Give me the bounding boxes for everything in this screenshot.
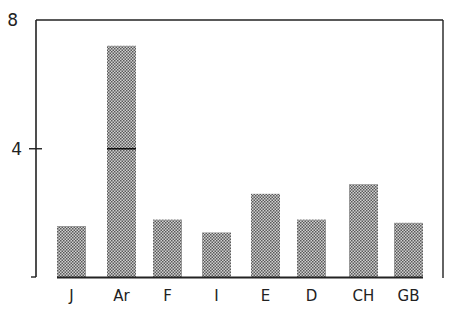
bar-chart: 48 JArFIEDCHGB [0, 0, 461, 314]
bar-f [153, 220, 182, 278]
bar-gb [394, 223, 423, 278]
x-category-label: J [68, 287, 73, 305]
plot-frame [31, 20, 443, 278]
bar-j [57, 226, 86, 278]
x-category-label: CH [353, 287, 375, 305]
x-axis-labels: JArFIEDCHGB [68, 287, 419, 305]
x-category-label: I [214, 287, 218, 305]
x-category-label: GB [398, 287, 420, 305]
y-tick-label: 8 [7, 10, 18, 30]
bars [57, 46, 423, 278]
bar-ch [349, 184, 378, 277]
y-tick-label: 4 [11, 139, 22, 159]
bar-d [297, 220, 326, 278]
x-category-label: D [306, 287, 318, 305]
x-category-label: F [163, 287, 172, 305]
x-category-label: Ar [113, 287, 130, 305]
bar-ar [107, 46, 136, 278]
x-category-label: E [261, 287, 270, 305]
bar-e [251, 194, 280, 278]
bar-i [202, 232, 231, 277]
